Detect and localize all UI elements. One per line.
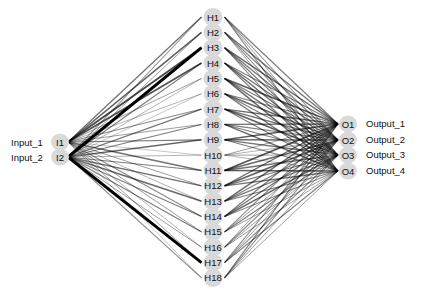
output-label: Output_2 (366, 134, 405, 145)
node-label: H16 (204, 242, 221, 253)
node-label: H15 (204, 226, 221, 237)
edge-input-hidden (68, 17, 202, 142)
edge-hidden-output (225, 171, 339, 278)
hidden-node: H9 (204, 131, 223, 149)
edge-hidden-output (225, 94, 339, 124)
edge-hidden-output (225, 17, 339, 124)
node-label: H17 (204, 257, 221, 268)
hidden-node: H10 (204, 146, 223, 164)
node-label: H7 (207, 104, 219, 115)
nodes-layer: I1Input_1I2Input_2H1H2H3H4H5H6H7H8H9H10H… (11, 8, 405, 287)
node-label: H10 (204, 150, 221, 161)
hidden-node: H17 (204, 254, 223, 272)
node-label: H14 (204, 211, 221, 222)
input-node: I2 (51, 148, 69, 165)
input-label: Input_1 (11, 137, 43, 148)
hidden-node: H3 (204, 39, 223, 57)
hidden-node: H2 (204, 23, 223, 41)
node-label: I2 (56, 152, 64, 163)
node-label: H11 (205, 165, 222, 176)
hidden-node: H1 (204, 8, 223, 26)
node-label: H8 (207, 119, 219, 130)
hidden-node: H14 (204, 208, 223, 226)
hidden-node: H6 (204, 85, 223, 103)
input-label: Input_2 (11, 152, 43, 163)
output-node: O3 (339, 146, 357, 163)
edge-input-hidden (68, 157, 202, 263)
hidden-node: H7 (204, 100, 223, 118)
node-label: H4 (207, 58, 219, 69)
node-label: H2 (207, 27, 219, 38)
hidden-node: H4 (204, 54, 223, 72)
hidden-node: H8 (204, 115, 223, 133)
output-node: O2 (339, 131, 357, 148)
edge-hidden-output (225, 63, 339, 124)
edges-layer (68, 17, 338, 278)
edge-input-hidden (68, 157, 202, 247)
input-node: I1 (51, 133, 69, 150)
node-label: H13 (204, 196, 221, 207)
edge-input-hidden (68, 17, 202, 157)
hidden-node: H11 (204, 161, 223, 179)
output-node: O1 (339, 115, 357, 132)
hidden-node: H16 (204, 238, 223, 256)
node-label: O1 (342, 119, 355, 130)
hidden-node: H13 (204, 192, 223, 210)
edge-input-hidden (68, 32, 202, 157)
edge-hidden-output (225, 32, 339, 124)
node-label: H3 (207, 42, 219, 53)
edge-input-hidden (68, 109, 202, 157)
hidden-node: H18 (204, 269, 223, 287)
hidden-node: H15 (204, 223, 223, 241)
edge-input-hidden (68, 78, 202, 157)
edge-hidden-output (225, 140, 339, 278)
output-label: Output_3 (366, 149, 405, 160)
node-label: H6 (207, 88, 219, 99)
node-label: O3 (342, 150, 355, 161)
node-label: H12 (204, 180, 221, 191)
edge-hidden-output (225, 155, 339, 278)
neural-network-diagram: I1Input_1I2Input_2H1H2H3H4H5H6H7H8H9H10H… (0, 0, 432, 296)
hidden-node: H12 (204, 177, 223, 195)
node-label: H5 (207, 73, 219, 84)
node-label: I1 (56, 137, 64, 148)
node-label: O2 (342, 135, 355, 146)
output-label: Output_4 (366, 165, 405, 176)
output-node: O4 (339, 162, 357, 179)
edge-input-hidden (68, 157, 202, 278)
output-label: Output_1 (366, 118, 405, 129)
node-label: H18 (204, 272, 221, 283)
hidden-node: H5 (204, 69, 223, 87)
node-label: H1 (207, 12, 219, 23)
node-label: O4 (342, 166, 355, 177)
node-label: H9 (207, 134, 219, 145)
